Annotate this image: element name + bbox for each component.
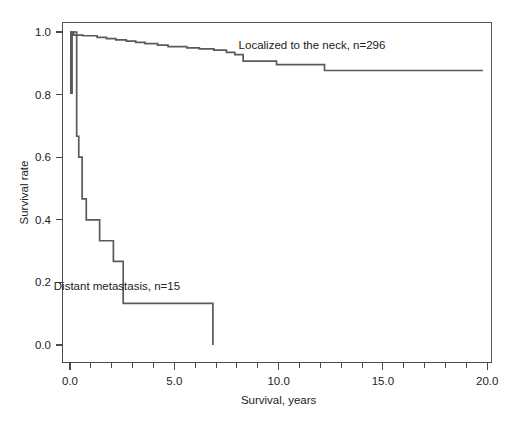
- plot-frame: [63, 23, 492, 363]
- x-axis-tick-labels: 0.0 5.0 10.0 15.0 20.0: [62, 375, 498, 387]
- curve-distant-metastasis: [70, 32, 213, 345]
- annotation-distant-metastasis: Distant metastasis, n=15: [54, 280, 180, 292]
- x-tick-label-1: 0.0: [62, 375, 78, 387]
- annotation-localized-to-neck: Localized to the neck, n=296: [239, 39, 386, 51]
- x-axis-ticks: [70, 363, 487, 370]
- y-tick-label-4: 0.4: [35, 214, 52, 226]
- x-tick-label-2: 5.0: [166, 375, 182, 387]
- survival-chart-figure: 1.0 0.8 0.6 0.4 0.2 0.0 0.0 5.0 10.0 15.…: [0, 0, 513, 425]
- x-axis-title: Survival, years: [241, 394, 317, 406]
- y-tick-label-1: 1.0: [35, 26, 51, 38]
- y-axis-title: Survival rate: [18, 161, 30, 225]
- y-tick-label-2: 0.8: [35, 89, 51, 101]
- y-axis-tick-labels: 1.0 0.8 0.6 0.4 0.2 0.0: [35, 26, 52, 351]
- kaplan-meier-plot: 1.0 0.8 0.6 0.4 0.2 0.0 0.0 5.0 10.0 15.…: [0, 0, 513, 425]
- y-tick-label-6: 0.0: [35, 339, 51, 351]
- y-tick-label-3: 0.6: [35, 151, 51, 163]
- y-tick-label-5: 0.2: [35, 276, 51, 288]
- x-tick-label-3: 10.0: [267, 375, 289, 387]
- x-tick-label-5: 20.0: [476, 375, 498, 387]
- x-tick-label-4: 15.0: [372, 375, 394, 387]
- y-axis-major-ticks: [56, 32, 63, 345]
